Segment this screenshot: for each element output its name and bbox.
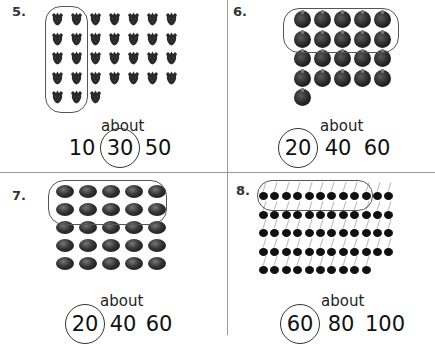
cherry-icon [316,248,325,256]
cherry-icon [316,229,325,237]
about-label: about [320,117,363,135]
strawberry-icon [165,70,178,84]
group-of-ten-circle [283,8,399,53]
cherry-icon [282,229,291,237]
cherry-icon [293,248,302,256]
cherry-icon [305,248,314,256]
choice-20-circled[interactable]: 20 [276,136,320,160]
cherry-icon [373,211,382,219]
strawberry-icon [89,50,102,64]
strawberry-icon [127,11,140,25]
strawberry-icon [127,31,140,45]
cherry-icon [282,266,291,274]
cherry-icon [327,248,336,256]
marble-icon [56,239,74,252]
group-of-ten-circle [45,6,88,113]
strawberry-icon [146,50,159,64]
choice-60-circled[interactable]: 60 [278,312,322,336]
cherry-icon [270,229,279,237]
choice-60[interactable]: 60 [355,136,399,160]
cherry-icon [362,248,371,256]
strawberry-icon [146,31,159,45]
cherry-icon [305,211,314,219]
strawberry-icon [127,70,140,84]
cherry-icon [339,248,348,256]
cherry-icon [339,211,348,219]
apple-icon [374,70,391,87]
cherry-icon [327,211,336,219]
cherry-icon [373,248,382,256]
apple-icon [314,70,331,87]
cherry-icon [305,229,314,237]
problem-number: 7. [12,188,26,203]
cherry-icon [293,266,302,274]
strawberry-icon [108,50,121,64]
apple-icon [294,89,311,106]
horizontal-divider [0,172,435,173]
group-of-ten-circle [257,180,373,211]
marble-icon [56,257,74,270]
problem-number: 5. [12,4,26,19]
cherry-icon [259,266,268,274]
apple-icon [354,70,371,87]
cherry-icon [384,211,393,219]
cherry-icon [384,192,393,200]
marble-icon [102,257,120,270]
cherry-icon [270,211,279,219]
marble-icon [125,257,143,270]
cherry-icon [350,248,359,256]
cherry-icon [259,248,268,256]
strawberry-icon [146,11,159,25]
strawberry-icon [89,70,102,84]
strawberry-icon [146,70,159,84]
choice-80[interactable]: 80 [319,312,363,336]
marble-icon [79,239,97,252]
cherry-icon [384,248,393,256]
cherry-icon [373,192,382,200]
problem-number: 6. [233,4,247,19]
marble-icon [148,257,166,270]
strawberry-icon [89,89,102,103]
about-label: about [321,292,364,310]
strawberry-icon [108,11,121,25]
group-of-ten-circle [48,180,167,225]
cherry-icon [350,211,359,219]
cherry-icon [362,229,371,237]
cherry-icon [293,211,302,219]
marble-icon [125,239,143,252]
answer-choices: 20 40 60 [0,136,435,166]
strawberry-icon [165,31,178,45]
marble-icon [102,239,120,252]
cherry-icon [259,229,268,237]
marble-icon [148,239,166,252]
strawberry-icon [165,11,178,25]
choice-40[interactable]: 40 [316,136,360,160]
cherry-icon [362,266,371,274]
problem-number: 8. [236,183,250,198]
cherry-icon [293,229,302,237]
strawberry-icon [89,31,102,45]
about-label: about [100,292,143,310]
choice-100[interactable]: 100 [363,312,407,336]
apple-icon [334,70,351,87]
cherry-icon [270,266,279,274]
vertical-divider [227,0,228,335]
cherry-icon [350,229,359,237]
cherry-icon [384,229,393,237]
marble-icon [79,257,97,270]
cherry-icon [282,248,291,256]
cherry-icon [259,211,268,219]
cherry-icon [339,266,348,274]
cherry-icon [305,266,314,274]
answer-choices: 60 80 100 [0,312,435,342]
cherry-icon [282,211,291,219]
cherry-icon [327,266,336,274]
strawberry-icon [165,50,178,64]
cherry-icon [270,248,279,256]
strawberry-icon [127,50,140,64]
apple-icon [294,70,311,87]
strawberry-icon [89,11,102,25]
cherry-icon [339,229,348,237]
cherry-icon [316,211,325,219]
cherry-icon [350,266,359,274]
